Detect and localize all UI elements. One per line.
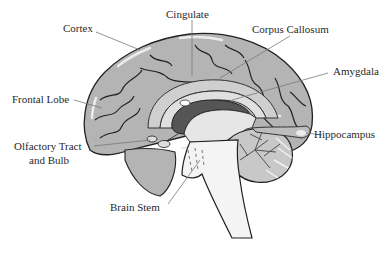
label-olfactory-tract: Olfactory Tract bbox=[14, 140, 82, 153]
hippocampus-highlight bbox=[296, 130, 306, 136]
label-cingulate: Cingulate bbox=[166, 8, 209, 21]
brain-diagram: Cortex Cingulate Corpus Callosum Amygdal… bbox=[0, 0, 392, 254]
label-frontal-lobe: Frontal Lobe bbox=[12, 93, 69, 106]
label-amygdala: Amygdala bbox=[333, 65, 379, 78]
label-brain-stem: Brain Stem bbox=[110, 201, 160, 214]
label-hippocampus: Hippocampus bbox=[314, 128, 375, 141]
brain-illustration bbox=[0, 0, 392, 254]
label-cortex: Cortex bbox=[63, 22, 93, 35]
label-corpus-callosum: Corpus Callosum bbox=[252, 23, 329, 36]
temporal-lobe bbox=[125, 149, 176, 196]
label-olfactory-bulb: and Bulb bbox=[29, 154, 69, 167]
interthalamic-adhesion bbox=[180, 100, 190, 106]
